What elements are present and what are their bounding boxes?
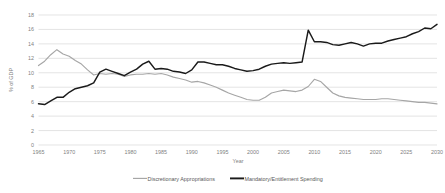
chart-legend: Discretionary AppropriationsMandatory/En… xyxy=(133,176,323,182)
x-tick-label-2000: 2000 xyxy=(247,149,259,155)
y-tick-label-10: 10 xyxy=(28,70,34,76)
x-axis-title: Year xyxy=(233,158,244,164)
legend-item-discretionary-appropriations: Discretionary Appropriations xyxy=(133,176,215,182)
x-tick-label-2030: 2030 xyxy=(431,149,443,155)
y-tick-label-0: 0 xyxy=(31,142,34,148)
y-tick-label-6: 6 xyxy=(31,99,34,105)
x-tick-label-1980: 1980 xyxy=(124,149,136,155)
legend-item-mandatory-entitlement-spending: Mandatory/Entitlement Spending xyxy=(230,176,323,182)
x-tick-label-2005: 2005 xyxy=(278,149,290,155)
gridlines-group xyxy=(39,15,438,145)
x-axis-tick-labels: 1965197019751980198519901995200020052010… xyxy=(33,149,444,155)
y-tick-label-18: 18 xyxy=(28,12,34,18)
y-tick-label-8: 8 xyxy=(31,84,34,90)
y-tick-label-16: 16 xyxy=(28,26,34,32)
legend-label-0: Discretionary Appropriations xyxy=(148,176,216,182)
x-tick-label-1985: 1985 xyxy=(155,149,167,155)
chart-container: 024681012141618 196519701975198019851990… xyxy=(0,0,445,193)
y-axis-tick-labels: 024681012141618 xyxy=(28,12,34,148)
y-tick-label-12: 12 xyxy=(28,55,34,61)
x-tick-label-2020: 2020 xyxy=(370,149,382,155)
series-group xyxy=(39,24,438,104)
line-chart: 024681012141618 196519701975198019851990… xyxy=(0,0,445,193)
x-tick-label-1990: 1990 xyxy=(186,149,198,155)
x-tick-label-1975: 1975 xyxy=(94,149,106,155)
y-tick-label-14: 14 xyxy=(28,41,34,47)
y-tick-label-4: 4 xyxy=(31,113,34,119)
x-tick-label-1965: 1965 xyxy=(33,149,45,155)
y-axis-title: % of GDP xyxy=(8,68,14,92)
series-line-mandatory-entitlement-spending xyxy=(39,24,438,104)
legend-label-1: Mandatory/Entitlement Spending xyxy=(245,176,323,182)
x-tick-label-2010: 2010 xyxy=(308,149,320,155)
x-tick-label-2015: 2015 xyxy=(339,149,351,155)
x-tick-label-1970: 1970 xyxy=(63,149,75,155)
y-tick-label-2: 2 xyxy=(31,128,34,134)
x-tick-label-2025: 2025 xyxy=(400,149,412,155)
x-tick-label-1995: 1995 xyxy=(216,149,228,155)
series-line-discretionary-appropriations xyxy=(39,50,438,104)
